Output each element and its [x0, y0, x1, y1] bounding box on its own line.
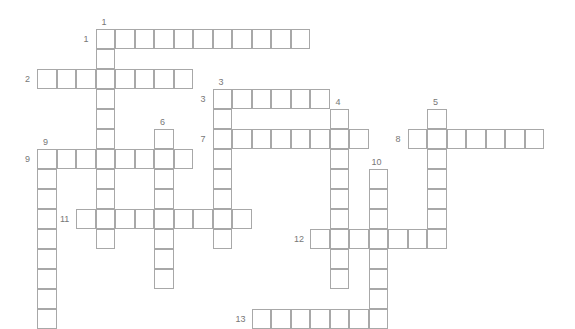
crossword-cell[interactable] — [232, 89, 252, 109]
crossword-cell[interactable] — [369, 229, 389, 249]
crossword-cell[interactable] — [154, 249, 174, 269]
crossword-cell[interactable] — [96, 189, 116, 209]
crossword-cell[interactable] — [505, 129, 525, 149]
crossword-cell[interactable] — [310, 309, 330, 329]
crossword-cell[interactable] — [330, 309, 350, 329]
crossword-cell[interactable] — [232, 129, 252, 149]
crossword-cell[interactable] — [271, 129, 291, 149]
crossword-cell[interactable] — [369, 309, 389, 329]
crossword-cell[interactable] — [388, 229, 408, 249]
crossword-cell[interactable] — [37, 209, 57, 229]
crossword-cell[interactable] — [408, 229, 428, 249]
crossword-cell[interactable] — [466, 129, 486, 149]
crossword-cell[interactable] — [193, 209, 213, 229]
crossword-cell[interactable] — [96, 49, 116, 69]
crossword-cell[interactable] — [447, 129, 467, 149]
crossword-cell[interactable] — [213, 169, 233, 189]
crossword-cell[interactable] — [252, 29, 272, 49]
crossword-cell[interactable] — [232, 29, 252, 49]
crossword-cell[interactable] — [310, 229, 330, 249]
crossword-cell[interactable] — [291, 129, 311, 149]
crossword-cell[interactable] — [96, 89, 116, 109]
crossword-cell[interactable] — [369, 249, 389, 269]
crossword-cell[interactable] — [369, 209, 389, 229]
crossword-cell[interactable] — [330, 229, 350, 249]
crossword-cell[interactable] — [213, 189, 233, 209]
crossword-cell[interactable] — [349, 229, 369, 249]
crossword-cell[interactable] — [154, 269, 174, 289]
crossword-cell[interactable] — [135, 69, 155, 89]
crossword-cell[interactable] — [271, 89, 291, 109]
crossword-cell[interactable] — [213, 109, 233, 129]
crossword-cell[interactable] — [213, 29, 233, 49]
crossword-cell[interactable] — [330, 149, 350, 169]
crossword-cell[interactable] — [76, 209, 96, 229]
crossword-cell[interactable] — [37, 149, 57, 169]
crossword-cell[interactable] — [76, 69, 96, 89]
crossword-cell[interactable] — [369, 289, 389, 309]
crossword-cell[interactable] — [330, 209, 350, 229]
crossword-cell[interactable] — [427, 109, 447, 129]
crossword-cell[interactable] — [193, 29, 213, 49]
crossword-cell[interactable] — [291, 309, 311, 329]
crossword-cell[interactable] — [96, 229, 116, 249]
crossword-cell[interactable] — [330, 189, 350, 209]
crossword-cell[interactable] — [486, 129, 506, 149]
crossword-cell[interactable] — [213, 229, 233, 249]
crossword-cell[interactable] — [427, 149, 447, 169]
crossword-cell[interactable] — [330, 169, 350, 189]
crossword-cell[interactable] — [427, 229, 447, 249]
crossword-cell[interactable] — [154, 149, 174, 169]
crossword-cell[interactable] — [154, 189, 174, 209]
crossword-cell[interactable] — [427, 129, 447, 149]
crossword-cell[interactable] — [525, 129, 545, 149]
crossword-cell[interactable] — [37, 289, 57, 309]
crossword-cell[interactable] — [96, 169, 116, 189]
crossword-cell[interactable] — [154, 209, 174, 229]
crossword-cell[interactable] — [37, 169, 57, 189]
crossword-cell[interactable] — [174, 69, 194, 89]
crossword-cell[interactable] — [291, 89, 311, 109]
crossword-cell[interactable] — [330, 109, 350, 129]
crossword-cell[interactable] — [349, 309, 369, 329]
crossword-cell[interactable] — [174, 29, 194, 49]
crossword-cell[interactable] — [330, 249, 350, 269]
crossword-cell[interactable] — [37, 309, 57, 329]
crossword-cell[interactable] — [427, 189, 447, 209]
crossword-cell[interactable] — [96, 149, 116, 169]
crossword-cell[interactable] — [57, 149, 77, 169]
crossword-cell[interactable] — [349, 129, 369, 149]
crossword-cell[interactable] — [154, 69, 174, 89]
crossword-cell[interactable] — [174, 149, 194, 169]
crossword-cell[interactable] — [76, 149, 96, 169]
crossword-cell[interactable] — [427, 169, 447, 189]
crossword-cell[interactable] — [291, 29, 311, 49]
crossword-cell[interactable] — [96, 109, 116, 129]
crossword-cell[interactable] — [252, 89, 272, 109]
crossword-cell[interactable] — [271, 29, 291, 49]
crossword-cell[interactable] — [154, 129, 174, 149]
crossword-cell[interactable] — [252, 309, 272, 329]
crossword-cell[interactable] — [96, 29, 116, 49]
crossword-cell[interactable] — [369, 269, 389, 289]
crossword-cell[interactable] — [213, 149, 233, 169]
crossword-cell[interactable] — [37, 69, 57, 89]
crossword-cell[interactable] — [232, 209, 252, 229]
crossword-cell[interactable] — [330, 129, 350, 149]
crossword-cell[interactable] — [252, 129, 272, 149]
crossword-cell[interactable] — [37, 229, 57, 249]
crossword-cell[interactable] — [37, 189, 57, 209]
crossword-cell[interactable] — [154, 229, 174, 249]
crossword-cell[interactable] — [369, 169, 389, 189]
crossword-cell[interactable] — [213, 89, 233, 109]
crossword-cell[interactable] — [135, 149, 155, 169]
crossword-cell[interactable] — [37, 269, 57, 289]
crossword-cell[interactable] — [310, 129, 330, 149]
crossword-cell[interactable] — [427, 209, 447, 229]
crossword-cell[interactable] — [408, 129, 428, 149]
crossword-cell[interactable] — [115, 29, 135, 49]
crossword-cell[interactable] — [135, 29, 155, 49]
crossword-cell[interactable] — [154, 169, 174, 189]
crossword-cell[interactable] — [96, 209, 116, 229]
crossword-cell[interactable] — [213, 129, 233, 149]
